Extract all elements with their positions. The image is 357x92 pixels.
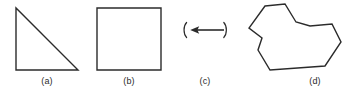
shape-triangle bbox=[16, 8, 78, 70]
figure-vector-layer bbox=[0, 0, 357, 92]
panel-label-d: (d) bbox=[309, 76, 321, 86]
shape-concave-polygon bbox=[249, 4, 341, 70]
panel-label-a: (a) bbox=[41, 76, 53, 86]
panel-label-c: (c) bbox=[199, 76, 210, 86]
shape-square bbox=[97, 8, 161, 70]
shape-arrow-group bbox=[184, 23, 226, 38]
left-parenthesis-bracket bbox=[184, 23, 187, 38]
panel-label-b: (b) bbox=[123, 76, 135, 86]
figure-canvas: (a) (b) (c) (d) bbox=[0, 0, 357, 92]
right-parenthesis-bracket bbox=[224, 23, 227, 38]
